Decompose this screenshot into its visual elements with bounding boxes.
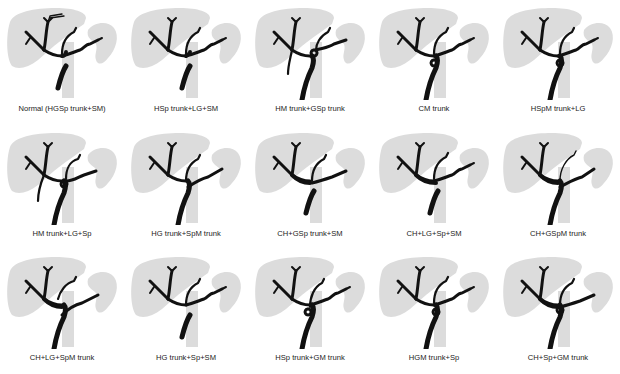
variant-label: HSpM trunk+LG [496,104,620,113]
variant-diagram-grid: Normal (HGSp trunk+SM) HSp trunk+LG+SM H… [0,0,620,374]
spleen-shape [336,148,365,189]
variant-label: Normal (HGSp trunk+SM) [0,104,124,113]
variant-label: HSp trunk+LG+SM [124,104,248,113]
anatomy-diagram [376,253,492,349]
spleen-shape [584,272,613,313]
variant-label: CH+LG+Sp+SM [372,229,496,238]
anatomy-diagram [4,4,120,100]
variant-panel-10: CH+GSpM trunk [496,125,620,250]
variant-label: HGM trunk+Sp [372,353,496,362]
artery-segment [305,309,311,315]
variant-panel-12: HG trunk+Sp+SM [124,249,248,374]
variant-panel-15: CH+Sp+GM trunk [496,249,620,374]
variant-panel-2: HSp trunk+LG+SM [124,0,248,125]
anatomy-diagram [376,4,492,100]
anatomy-diagram [128,253,244,349]
artery-segment [292,50,310,56]
variant-label: HM trunk+GSp trunk [248,104,372,113]
artery-segment [168,50,186,56]
variant-panel-6: HM trunk+LG+Sp [0,125,124,250]
artery-segment [292,299,310,305]
anatomy-diagram [128,4,244,100]
artery-segment [416,299,434,305]
anatomy-diagram [376,129,492,225]
variant-label: CM trunk [372,104,496,113]
variant-panel-14: HGM trunk+Sp [372,249,496,374]
variant-panel-4: CM trunk [372,0,496,125]
anatomy-diagram [252,253,368,349]
anatomy-diagram [252,4,368,100]
variant-panel-7: HG trunk+SpM trunk [124,125,248,250]
anatomy-diagram [500,253,616,349]
artery-segment [44,175,62,181]
spleen-shape [88,272,117,313]
variant-label: HG trunk+Sp+SM [124,353,248,362]
variant-label: CH+Sp+GM trunk [496,353,620,362]
artery-segment [44,50,62,56]
variant-panel-13: HSp trunk+GM trunk [248,249,372,374]
variant-panel-8: CH+GSp trunk+SM [248,125,372,250]
spleen-shape [212,148,241,189]
anatomy-diagram [4,253,120,349]
variant-label: CH+LG+SpM trunk [0,353,124,362]
artery-segment [168,299,186,305]
variant-panel-5: HSpM trunk+LG [496,0,620,125]
variant-label: HSp trunk+GM trunk [248,353,372,362]
variant-label: CH+GSp trunk+SM [248,229,372,238]
variant-label: HG trunk+SpM trunk [124,229,248,238]
anatomy-diagram [252,129,368,225]
variant-label: CH+GSpM trunk [496,229,620,238]
anatomy-diagram [500,129,616,225]
artery-segment [416,50,434,56]
anatomy-diagram [4,129,120,225]
variant-panel-1: Normal (HGSp trunk+SM) [0,0,124,125]
anatomy-diagram [500,4,616,100]
artery-segment [168,175,186,181]
variant-panel-11: CH+LG+SpM trunk [0,249,124,374]
spleen-shape [88,148,117,189]
variant-panel-9: CH+LG+Sp+SM [372,125,496,250]
artery-segment [540,50,558,56]
spleen-shape [584,148,613,189]
variant-label: HM trunk+LG+Sp [0,229,124,238]
anatomy-diagram [128,129,244,225]
variant-panel-3: HM trunk+GSp trunk [248,0,372,125]
